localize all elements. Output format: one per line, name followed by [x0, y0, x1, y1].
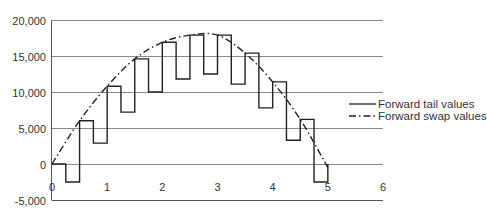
y-tick-label: 20,000 [12, 15, 46, 27]
legend-label-swap: Forward swap values [378, 110, 487, 122]
legend: Forward tail values Forward swap values [349, 98, 487, 122]
y-tick-label: 5,000 [18, 123, 46, 135]
x-tick-labels: 0123456 [49, 181, 386, 193]
y-tick-label: 0 [40, 159, 46, 171]
x-tick-label: 0 [49, 181, 55, 193]
x-tick-label: 5 [325, 181, 331, 193]
x-tick-label: 3 [214, 181, 220, 193]
x-tick-label: 6 [380, 181, 386, 193]
y-tick-label: 10,000 [12, 87, 46, 99]
x-tick-label: 2 [159, 181, 165, 193]
forward-tail-series [52, 35, 328, 182]
legend-label-tail: Forward tail values [378, 98, 475, 110]
y-tick-label: -5,000 [15, 195, 46, 207]
y-tick-labels: 20,00015,00010,0005,0000-5,000 [12, 15, 46, 207]
y-tick-label: 15,000 [12, 51, 46, 63]
x-tick-label: 4 [270, 181, 276, 193]
x-tick-label: 1 [104, 181, 110, 193]
chart: 20,00015,00010,0005,0000-5,000 0123456 F… [0, 0, 487, 218]
